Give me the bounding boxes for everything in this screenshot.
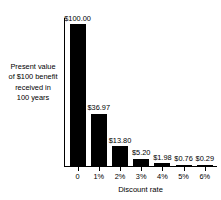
- x-axis-label: Discount rate: [64, 185, 217, 194]
- bar: [133, 159, 149, 166]
- bar-value-label: $0.29: [196, 155, 215, 163]
- x-axis-tick: [184, 167, 185, 171]
- y-axis-label-line-4: 100 years: [4, 93, 62, 103]
- x-axis-tick-label: 3%: [136, 172, 147, 181]
- bar-group: $1.98: [152, 18, 173, 166]
- bar: [197, 165, 213, 166]
- y-axis-label-line-1: Present value: [4, 62, 62, 72]
- x-axis-ticks: [64, 167, 217, 171]
- bar: [70, 24, 86, 166]
- x-axis-tick: [205, 167, 206, 171]
- x-axis-tick-label: 4%: [157, 172, 168, 181]
- bar: [176, 165, 192, 166]
- x-axis-tick-label: 6%: [199, 172, 210, 181]
- y-axis-label-line-3: received in: [4, 83, 62, 93]
- bar-series: $100.00 $36.97 $13.80 $5.20 $1.98 $0.76: [64, 18, 217, 166]
- x-axis-tick: [120, 167, 121, 171]
- plot-area: $100.00 $36.97 $13.80 $5.20 $1.98 $0.76: [64, 18, 217, 167]
- bar-group: $100.00: [67, 18, 88, 166]
- bar: [112, 146, 128, 166]
- bar: [154, 163, 170, 166]
- bar-value-label: $13.80: [109, 137, 132, 145]
- x-axis-tick-label: 0: [76, 172, 80, 181]
- bar-value-label: $0.76: [174, 155, 193, 163]
- x-axis-tick-labels: 0 1% 2% 3% 4% 5% 6%: [64, 172, 217, 184]
- y-axis-label-line-2: of $100 benefit: [4, 72, 62, 82]
- x-axis-tick: [99, 167, 100, 171]
- bar-group: $13.80: [109, 18, 130, 166]
- bar-value-label: $5.20: [132, 149, 151, 157]
- bar-value-label: $100.00: [64, 15, 91, 23]
- bar-group: $36.97: [88, 18, 109, 166]
- bar-value-label: $36.97: [87, 104, 110, 112]
- bar-group: $0.76: [173, 18, 194, 166]
- x-axis-tick-label: 5%: [178, 172, 189, 181]
- x-axis-tick: [162, 167, 163, 171]
- bar-group: $0.29: [194, 18, 215, 166]
- x-axis-tick-label: 1%: [93, 172, 104, 181]
- x-axis-tick: [141, 167, 142, 171]
- x-axis-tick: [78, 167, 79, 171]
- bar-group: $5.20: [131, 18, 152, 166]
- x-axis-tick-label: 2%: [115, 172, 126, 181]
- y-axis-label: Present value of $100 benefit received i…: [4, 62, 62, 104]
- bar-chart-figure: Present value of $100 benefit received i…: [0, 0, 221, 200]
- bar-value-label: $1.98: [153, 154, 172, 162]
- bar: [91, 114, 107, 166]
